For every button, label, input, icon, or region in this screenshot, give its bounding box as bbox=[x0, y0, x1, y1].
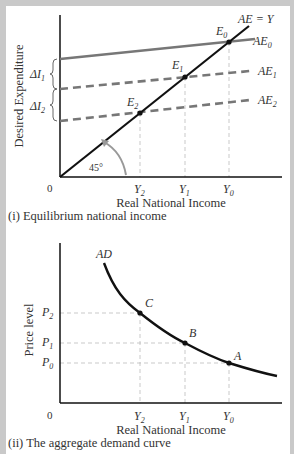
x-axis-label: Real National Income bbox=[116, 423, 226, 437]
x-axis-label: Real National Income bbox=[116, 196, 226, 210]
guide-lines bbox=[60, 313, 229, 403]
delta-i1-label: ΔI1 bbox=[29, 67, 45, 83]
ae1-line bbox=[60, 71, 250, 89]
ad-label: AD bbox=[95, 247, 112, 261]
e2-label: E2 bbox=[126, 95, 138, 111]
chart-aggregate-demand: AD C B A P2 P1 P0 0 Y2 Y1 Y0 Real Nation… bbox=[22, 243, 282, 437]
delta-i2-label: ΔI2 bbox=[29, 99, 45, 115]
e1-label: E1 bbox=[171, 58, 183, 74]
chart-equilibrium-income: AE = Y AE0 AE1 AE2 E0 E1 E2 ΔI1 ΔI2 45° … bbox=[12, 12, 282, 210]
caption-panel-2: (ii) The aggregate demand curve bbox=[8, 436, 171, 451]
y-axis-label: Desired Expenditure bbox=[12, 44, 26, 148]
ae1-label: AE1 bbox=[257, 64, 277, 80]
ae0-label: AE0 bbox=[252, 34, 272, 50]
brace-delta-i2-icon bbox=[50, 89, 57, 121]
ae2-label: AE2 bbox=[257, 93, 277, 109]
figure-svg: AE = Y AE0 AE1 AE2 E0 E1 E2 ΔI1 ΔI2 45° … bbox=[0, 0, 294, 454]
point-e2 bbox=[137, 110, 142, 115]
y-axis-label: Price level bbox=[22, 303, 36, 357]
brace-delta-i1-icon bbox=[50, 59, 57, 89]
origin-label: 0 bbox=[47, 182, 53, 194]
y-tick-p1: P1 bbox=[41, 335, 53, 351]
e0-label: E0 bbox=[215, 24, 227, 40]
origin-label: 0 bbox=[47, 409, 53, 421]
ae0-line bbox=[60, 39, 255, 59]
point-e1 bbox=[182, 74, 187, 79]
c-label: C bbox=[145, 296, 154, 310]
caption-panel-1: (i) Equilibrium national income bbox=[8, 209, 167, 224]
ae2-line bbox=[60, 100, 250, 121]
point-b bbox=[182, 340, 187, 345]
ae-equals-y-label: AE = Y bbox=[237, 12, 275, 26]
point-a bbox=[226, 360, 231, 365]
point-e0 bbox=[226, 39, 231, 44]
b-label: B bbox=[189, 326, 197, 340]
angle-label: 45° bbox=[89, 162, 103, 173]
point-c bbox=[137, 310, 142, 315]
y-tick-p0: P0 bbox=[41, 355, 53, 371]
angle-arc-icon bbox=[104, 142, 126, 175]
y-tick-p2: P2 bbox=[41, 305, 53, 321]
ad-curve bbox=[104, 263, 277, 376]
a-label: A bbox=[233, 349, 242, 363]
